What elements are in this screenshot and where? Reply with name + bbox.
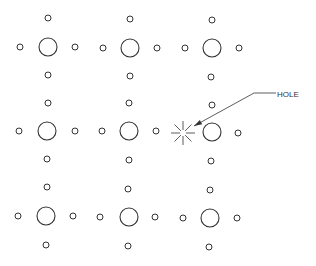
small-circle — [127, 73, 133, 79]
bolt-pattern-group — [99, 100, 159, 163]
large-circle — [38, 122, 56, 140]
small-circle — [235, 130, 241, 136]
large-circle — [121, 39, 139, 57]
small-circle — [72, 128, 78, 134]
bolt-pattern-group — [180, 187, 240, 250]
bolt-pattern-group — [17, 15, 78, 78]
small-circle — [236, 45, 242, 51]
hole-pattern-diagram: HOLE — [0, 0, 316, 266]
small-circle — [180, 215, 186, 221]
small-circle — [99, 128, 105, 134]
small-circle — [154, 45, 160, 51]
bolt-pattern-group — [97, 186, 158, 249]
bolt-pattern-group — [16, 100, 78, 162]
small-circle — [45, 72, 51, 78]
small-circle — [125, 243, 131, 249]
small-circle — [44, 156, 50, 162]
small-circle — [209, 102, 215, 108]
small-circle — [72, 44, 78, 50]
small-circle — [97, 214, 103, 220]
small-circle — [16, 128, 22, 134]
small-circle — [126, 100, 132, 106]
small-circle — [153, 128, 159, 134]
starburst-ray — [175, 135, 181, 141]
small-circle — [43, 242, 49, 248]
small-circle — [100, 45, 106, 51]
starburst-ray — [175, 125, 181, 131]
small-circle — [45, 100, 51, 106]
starburst-ray — [185, 125, 191, 131]
small-circle — [209, 17, 215, 23]
small-circle — [207, 187, 213, 193]
hole-starburst-icon — [171, 121, 195, 145]
large-circle — [37, 207, 55, 225]
small-circle — [234, 215, 240, 221]
large-circle — [201, 209, 219, 227]
large-circle — [120, 208, 138, 226]
large-circle — [120, 122, 138, 140]
bolt-pattern-group — [203, 102, 241, 164]
circle-grid — [15, 15, 242, 250]
small-circle — [125, 186, 131, 192]
small-circle — [206, 244, 212, 250]
bolt-pattern-group — [100, 16, 160, 79]
arrowhead-icon — [194, 120, 202, 126]
large-circle — [203, 39, 221, 57]
bolt-pattern-group — [182, 17, 242, 80]
small-circle — [44, 184, 50, 190]
small-circle — [208, 74, 214, 80]
small-circle — [15, 213, 21, 219]
small-circle — [126, 157, 132, 163]
small-circle — [182, 45, 188, 51]
small-circle — [70, 213, 76, 219]
bolt-pattern-group — [15, 184, 76, 248]
small-circle — [152, 214, 158, 220]
small-circle — [45, 15, 51, 21]
leader-line — [194, 93, 276, 126]
starburst-ray — [185, 135, 191, 141]
small-circle — [17, 44, 23, 50]
small-circle — [208, 158, 214, 164]
small-circle — [127, 16, 133, 22]
hole-callout: HOLE — [194, 90, 299, 126]
large-circle — [203, 123, 221, 141]
large-circle — [39, 38, 57, 56]
hole-label: HOLE — [277, 90, 299, 99]
